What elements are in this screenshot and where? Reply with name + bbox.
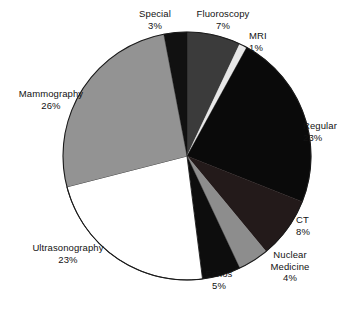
pie-chart: Special 3% Fluoroscopy 7% MRI 1% Regular… xyxy=(0,0,362,311)
pie-chart-canvas xyxy=(0,0,362,311)
pie-slice-group xyxy=(63,32,311,280)
